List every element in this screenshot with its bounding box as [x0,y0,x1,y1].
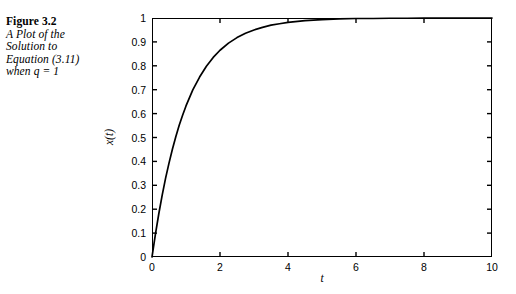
y-tick-label-3: 0.3 [120,179,146,191]
y-tick-label-4: 0.4 [120,155,146,167]
figure-number: Figure 3.2 [6,15,106,28]
caption-line-2: Solution to [6,40,106,53]
y-tick-label-10: 1 [120,12,146,24]
x-tick-label-1: 2 [217,261,223,273]
y-axis-tick-labels: 00.10.20.30.40.50.60.70.80.91 [118,18,146,257]
caption-line-3: Equation (3.11) [6,53,106,66]
data-curve-series-0 [152,18,492,257]
x-tick-label-0: 0 [149,261,155,273]
y-tick-label-9: 0.9 [120,36,146,48]
y-tick-label-0: 0 [120,251,146,263]
plot-canvas [152,18,492,257]
figure-container: Figure 3.2 A Plot of the Solution to Equ… [0,0,516,294]
y-tick-label-6: 0.6 [120,108,146,120]
x-tick-label-2: 4 [285,261,291,273]
figure-caption: Figure 3.2 A Plot of the Solution to Equ… [6,15,106,78]
y-tick-label-1: 0.1 [120,227,146,239]
tick-marks [152,18,492,257]
caption-line-4: when q = 1 [6,65,106,78]
x-tick-label-5: 10 [486,261,498,273]
caption-line-1: A Plot of the [6,28,106,41]
x-tick-label-4: 8 [421,261,427,273]
y-axis-title: x(t) [103,129,115,145]
y-tick-label-8: 0.8 [120,60,146,72]
x-tick-label-3: 6 [353,261,359,273]
x-axis-title: t [320,272,323,284]
y-tick-label-2: 0.2 [120,203,146,215]
y-tick-label-5: 0.5 [120,132,146,144]
y-tick-label-7: 0.7 [120,84,146,96]
